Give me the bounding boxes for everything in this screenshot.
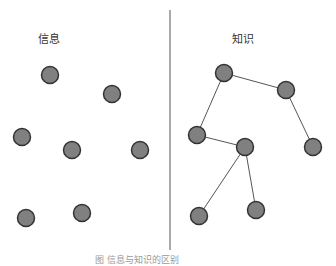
edge-line: [224, 73, 286, 90]
information-nodes: [14, 67, 149, 227]
node-circle: [189, 127, 206, 144]
figure-caption: 图 信息与知识的区别: [95, 253, 179, 266]
node-circle: [42, 67, 59, 84]
node-circle: [278, 82, 295, 99]
node-circle: [64, 142, 81, 159]
edge-line: [197, 73, 224, 135]
edge-line: [199, 147, 245, 216]
node-circle: [248, 202, 265, 219]
knowledge-nodes: [189, 65, 322, 225]
node-circle: [104, 86, 121, 103]
node-circle: [14, 129, 31, 146]
node-circle: [18, 210, 35, 227]
edge-line: [286, 90, 313, 147]
node-circle: [237, 139, 254, 156]
node-circle: [305, 139, 322, 156]
node-circle: [132, 142, 149, 159]
edge-line: [245, 147, 256, 210]
node-circle: [191, 208, 208, 225]
node-circle: [216, 65, 233, 82]
knowledge-edges: [197, 73, 313, 216]
node-circle: [74, 205, 91, 222]
